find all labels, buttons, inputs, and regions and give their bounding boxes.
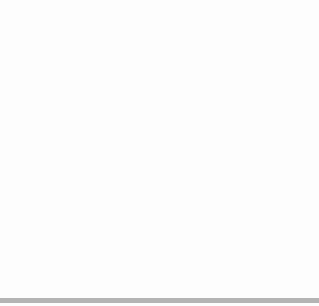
footer-bar (0, 298, 319, 303)
coordinate-plane (0, 0, 319, 306)
